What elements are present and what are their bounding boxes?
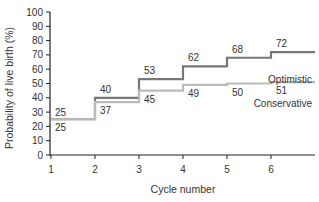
- y-tick-label: 30: [32, 107, 44, 118]
- y-tick-label: 0: [37, 150, 43, 161]
- x-tick-label: 5: [224, 164, 230, 175]
- value-label-conservative: 45: [144, 94, 156, 105]
- value-label-optimistic: 68: [232, 44, 244, 55]
- y-tick-label: 90: [32, 21, 44, 32]
- x-tick-label: 2: [92, 164, 98, 175]
- value-label-optimistic: 72: [276, 38, 288, 49]
- y-tick-label: 80: [32, 35, 44, 46]
- value-label-conservative: 49: [188, 88, 200, 99]
- live-birth-step-chart: 0102030405060708090100123456Cycle number…: [0, 0, 319, 202]
- x-tick-label: 3: [136, 164, 142, 175]
- value-label-optimistic: 25: [55, 107, 67, 118]
- value-label-optimistic: 40: [100, 84, 112, 95]
- value-label-conservative: 51: [276, 85, 288, 96]
- legend-label-conservative: Conservative: [254, 98, 313, 109]
- value-label-conservative: 50: [232, 87, 244, 98]
- y-axis-title: Probability of live birth (%): [3, 27, 15, 149]
- y-tick-label: 10: [32, 135, 44, 146]
- y-tick-label: 100: [26, 7, 43, 18]
- y-tick-label: 50: [32, 78, 44, 89]
- x-tick-label: 4: [180, 164, 186, 175]
- y-tick-label: 40: [32, 92, 44, 103]
- value-label-conservative: 37: [100, 105, 112, 116]
- x-tick-label: 6: [268, 164, 274, 175]
- y-tick-label: 60: [32, 64, 44, 75]
- legend-label-optimistic: Optimistic: [268, 74, 312, 85]
- x-tick-label: 1: [48, 164, 54, 175]
- x-axis-title: Cycle number: [151, 183, 216, 195]
- value-label-optimistic: 62: [188, 52, 200, 63]
- value-label-optimistic: 53: [144, 65, 156, 76]
- y-tick-label: 70: [32, 49, 44, 60]
- y-tick-label: 20: [32, 121, 44, 132]
- value-label-conservative: 25: [55, 122, 67, 133]
